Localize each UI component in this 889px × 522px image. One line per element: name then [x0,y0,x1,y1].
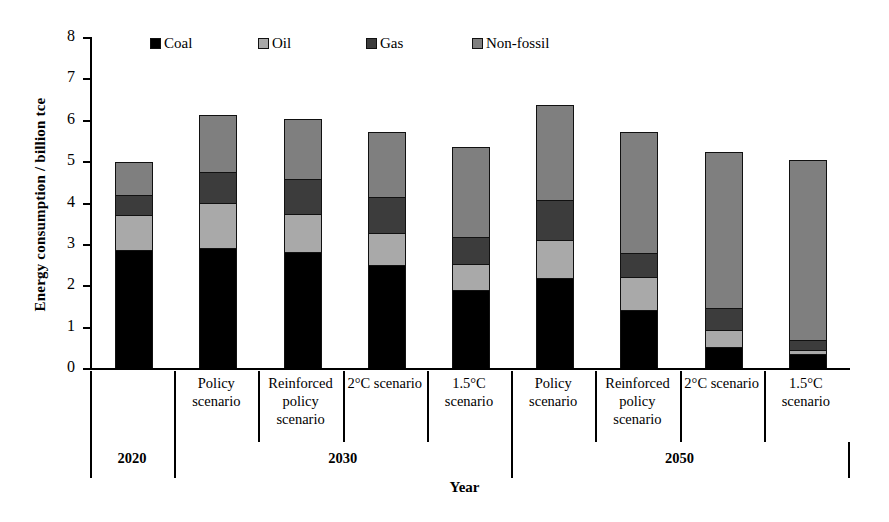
bar-segment-non-fossil [115,162,153,195]
scenario-label-cell: Policy scenario [511,371,595,442]
bar-stack [284,119,322,368]
bar-segment-gas [368,197,406,233]
y-tick-4: 4 [83,203,90,205]
bar-stack [452,147,490,368]
scenario-divider [680,371,682,442]
year-label-2020: 2020 [90,442,174,478]
bar-segment-coal [368,265,406,368]
y-tick-2: 2 [83,285,90,287]
legend-swatch-icon [258,38,269,49]
bar-segment-gas [115,195,153,215]
bar-series-container [92,37,850,368]
scenario-divider [343,371,345,442]
legend-item-gas[interactable]: Gas [366,36,403,51]
legend-label: Non-fossil [486,36,549,51]
bar-segment-non-fossil [620,132,658,253]
bar-segment-non-fossil [452,147,490,236]
bar-stack [705,152,743,368]
legend-item-oil[interactable]: Oil [258,36,291,51]
y-tick-label: 5 [53,150,75,170]
year-label-2050: 2050 [511,442,848,478]
scenario-label-band: Policy scenarioReinforced policy scenari… [90,371,850,442]
bar-segment-oil [199,203,237,248]
bar-segment-oil [452,264,490,290]
scenario-label-cell [90,371,174,442]
legend-label: Gas [380,36,403,51]
y-tick-7: 7 [83,78,90,80]
scenario-label-cell: 2°C scenario [680,371,764,442]
y-tick-0: 0 [83,368,90,370]
y-tick-3: 3 [83,244,90,246]
bar-stack [536,105,574,368]
bar-segment-gas [620,253,658,277]
y-tick-8: 8 [83,37,90,39]
bar-segment-non-fossil [705,152,743,308]
legend-item-non-fossil[interactable]: Non-fossil [472,36,549,51]
y-tick-label: 6 [53,109,75,129]
bar-segment-coal [536,278,574,368]
bar-segment-gas [705,308,743,330]
x-axis-title: Year [0,479,889,496]
bar-stack [789,160,827,368]
legend-label: Coal [164,36,192,51]
bar-segment-non-fossil [284,119,322,179]
legend-item-coal[interactable]: Coal [150,36,192,51]
scenario-divider [595,371,597,442]
bar-segment-coal [115,250,153,368]
scenario-label-cell: Reinforced policy scenario [595,371,679,442]
y-tick-label: 1 [53,316,75,336]
bar-segment-oil [115,215,153,250]
legend-swatch-icon [366,38,377,49]
scenario-divider [764,371,766,442]
y-tick-label: 2 [53,274,75,294]
bar-segment-coal [199,248,237,368]
y-tick-label: 4 [53,192,75,212]
bar-segment-oil [705,330,743,347]
y-tick-1: 1 [83,327,90,329]
scenario-label-cell: 2°C scenario [343,371,427,442]
bar-segment-oil [284,214,322,252]
bar-segment-gas [789,340,827,350]
bar-stack [115,162,153,368]
bar-segment-oil [368,233,406,265]
scenario-divider [258,371,260,442]
bar-segment-gas [284,179,322,215]
bar-segment-non-fossil [536,105,574,200]
plot-area: 876543210 [90,37,850,368]
bar-segment-oil [620,277,658,310]
scenario-divider [511,371,513,442]
y-tick-6: 6 [83,120,90,122]
scenario-label-cell: 1.5°C scenario [427,371,511,442]
bar-segment-oil [536,240,574,278]
scenario-divider [90,371,92,442]
scenario-label-cell: Reinforced policy scenario [258,371,342,442]
bar-stack [368,132,406,368]
bar-segment-coal [705,347,743,368]
legend-label: Oil [272,36,291,51]
legend-swatch-icon [472,38,483,49]
bar-segment-gas [199,172,237,203]
year-divider [848,442,850,478]
bar-segment-coal [620,310,658,368]
bar-segment-gas [452,237,490,264]
year-divider [90,442,92,478]
y-tick-label: 8 [53,26,75,46]
bar-segment-non-fossil [368,132,406,197]
x-axis-line [90,368,850,370]
y-tick-5: 5 [83,161,90,163]
bar-segment-coal [789,354,827,368]
y-axis-title: Energy consumption / billion tce [32,55,49,355]
bar-segment-gas [536,200,574,240]
bar-stack [199,115,237,368]
bar-segment-non-fossil [789,160,827,340]
y-tick-label: 0 [53,357,75,377]
stacked-bar-chart-figure: Energy consumption / billion tce 8765432… [0,0,889,522]
year-divider [511,442,513,478]
scenario-label-cell: Policy scenario [174,371,258,442]
y-tick-label: 7 [53,67,75,87]
bar-segment-non-fossil [199,115,237,172]
year-label-2030: 2030 [174,442,511,478]
bar-segment-coal [284,252,322,368]
bar-segment-coal [452,290,490,368]
scenario-divider [427,371,429,442]
